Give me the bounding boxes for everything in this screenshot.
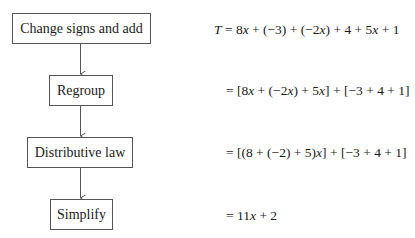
step-change-signs-and-add: Change signs and add <box>12 13 151 44</box>
step-distributive-law: Distributive law <box>27 137 133 168</box>
equation-simplify: = 11x + 2 <box>226 209 277 223</box>
step-label: Regroup <box>57 83 105 99</box>
step-simplify: Simplify <box>50 199 113 230</box>
equation-distributive: = [(8 + (−2) + 5)x] + [−3 + 4 + 1] <box>226 146 407 160</box>
step-label: Change signs and add <box>20 21 142 37</box>
step-regroup: Regroup <box>49 75 113 106</box>
step-label: Distributive law <box>35 145 126 161</box>
step-label: Simplify <box>57 207 106 223</box>
equation-change-signs: T = 8x + (−3) + (−2x) + 4 + 5x + 1 <box>214 23 399 37</box>
equation-regroup: = [8x + (−2x) + 5x] + [−3 + 4 + 1] <box>226 84 410 98</box>
